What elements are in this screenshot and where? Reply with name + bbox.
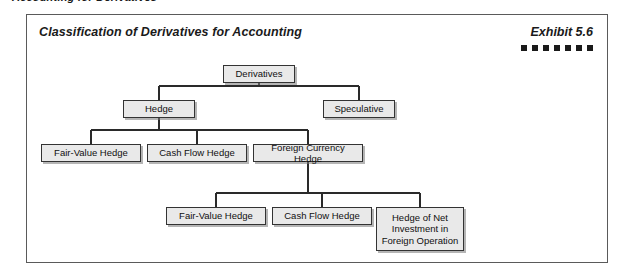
tree-node-fair-value-hedge: Fair-Value Hedge — [41, 144, 141, 162]
tree-node-hedge: Hedge — [123, 100, 195, 118]
tree-node-label: Foreign Currency Hedge — [258, 142, 358, 165]
connector-stem — [158, 118, 159, 130]
connector-stem — [307, 162, 308, 193]
tree-node-cash-flow-hedge: Cash Flow Hedge — [147, 144, 247, 162]
connector-drop — [215, 193, 216, 207]
derivatives-classification-tree: DerivativesHedgeSpeculativeFair-Value He… — [27, 15, 609, 264]
tree-node-foreign-currency-hedge: Foreign Currency Hedge — [253, 144, 363, 162]
tree-node-label: Derivatives — [236, 68, 283, 80]
connector-drop — [321, 193, 322, 207]
connector-drop — [419, 193, 420, 207]
connector-bus — [216, 192, 420, 193]
tree-node-derivatives: Derivatives — [223, 65, 295, 83]
tree-node-label: Fair-Value Hedge — [54, 147, 128, 159]
connector-bus — [91, 129, 308, 130]
tree-node-label: Speculative — [334, 103, 383, 115]
tree-node-label: Cash Flow Hedge — [284, 210, 360, 222]
connector-drop — [158, 86, 159, 100]
tree-node-hedge-net-investment: Hedge of Net Investment in Foreign Opera… — [376, 207, 464, 251]
tree-node-label: Hedge — [145, 103, 173, 115]
tree-node-label: Hedge of Net Investment in Foreign Opera… — [381, 212, 459, 247]
exhibit-frame: Classification of Derivatives for Accoun… — [26, 14, 608, 263]
page-header: Accounting for Derivatives — [12, 0, 157, 3]
tree-node-cf-hedge-2: Cash Flow Hedge — [272, 207, 372, 225]
tree-node-speculative: Speculative — [323, 100, 395, 118]
tree-node-label: Cash Flow Hedge — [159, 147, 235, 159]
tree-node-label: Fair-Value Hedge — [179, 210, 253, 222]
tree-node-fv-hedge-2: Fair-Value Hedge — [166, 207, 266, 225]
connector-drop — [196, 130, 197, 144]
connector-drop — [90, 130, 91, 144]
connector-bus — [159, 85, 359, 86]
connector-drop — [358, 86, 359, 100]
